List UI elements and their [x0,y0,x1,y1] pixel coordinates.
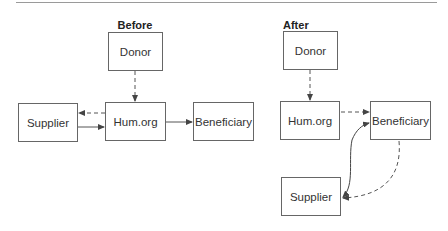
arrows-layer [0,0,448,231]
after-supplier-beneficiary-bidirectional-arrow [343,123,369,197]
after-beneficiary-to-supplier-dashed-arrow [343,141,399,198]
